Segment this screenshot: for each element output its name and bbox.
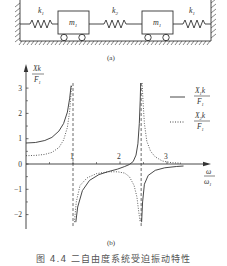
left-spring-icon xyxy=(20,20,58,28)
y-tick-label: 1 xyxy=(18,134,22,143)
x2-response-curve xyxy=(74,172,140,222)
svg-text:ω: ω xyxy=(206,167,211,176)
svg-text:F1: F1 xyxy=(196,97,204,107)
y-tick-label: 2 xyxy=(18,109,22,118)
middle-spring-label: k2 xyxy=(112,6,119,16)
asymptote-lines xyxy=(73,83,141,227)
diagram-subfigure-label: (a) xyxy=(107,54,115,62)
mass-2-wheel-left xyxy=(145,34,151,40)
y-tick-label: −2 xyxy=(14,210,22,219)
right-spring-icon xyxy=(173,20,211,28)
response-curves xyxy=(26,83,184,222)
y-axis-title: Xk F1 xyxy=(32,64,44,85)
x2-response-curve xyxy=(142,83,181,163)
frequency-response-chart: 123−2−10123 Xk F1 ω ω1 X1k F1 X2k xyxy=(14,64,215,247)
x-tick-label: 1 xyxy=(70,152,74,161)
svg-text:F1: F1 xyxy=(196,122,204,132)
legend-item-x2: X2k F1 xyxy=(170,111,210,132)
x1-response-curve xyxy=(26,86,71,143)
right-spring-label: k1 xyxy=(189,6,195,16)
x1-response-curve xyxy=(76,83,141,222)
plot-subfigure-label: (b) xyxy=(107,239,116,247)
mass-1-wheel-left xyxy=(61,34,67,40)
chart-legend: X1k F1 X2k F1 xyxy=(170,86,210,132)
figure-caption: 图 4.4 二自由度系统受迫振动特性 xyxy=(0,252,227,265)
middle-spring-icon xyxy=(89,20,142,28)
svg-text:X1k: X1k xyxy=(194,86,206,96)
y-tick-label: 3 xyxy=(18,84,22,93)
svg-text:F1: F1 xyxy=(33,75,41,85)
mass-1-wheel-right xyxy=(79,34,85,40)
legend-item-x1: X1k F1 xyxy=(170,86,210,107)
chart-axes xyxy=(24,64,211,229)
axis-ticks: 123−2−10123 xyxy=(14,84,168,220)
x-tick-label: 3 xyxy=(164,152,168,161)
x1-response-curve xyxy=(142,166,184,222)
y-tick-label: −1 xyxy=(14,185,22,194)
figure: k1 k2 k1 m1 m1 (a) 123−2−10123 Xk F1 ω ω… xyxy=(0,0,227,266)
svg-text:Xk: Xk xyxy=(32,64,42,73)
svg-text:X2k: X2k xyxy=(194,111,206,121)
y-axis-arrow-icon xyxy=(24,64,28,72)
y-tick-label: 0 xyxy=(18,160,22,169)
x-axis-title: ω ω1 xyxy=(204,167,215,187)
x-axis-arrow-icon xyxy=(203,162,211,166)
svg-text:ω1: ω1 xyxy=(204,177,212,187)
mass-2-wheel-right xyxy=(163,34,169,40)
x-tick-label: 2 xyxy=(117,152,121,161)
left-spring-label: k1 xyxy=(38,6,44,16)
